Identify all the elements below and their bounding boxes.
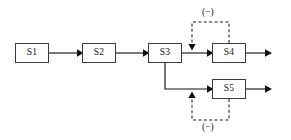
node-s2-label: S2	[94, 48, 104, 58]
connection-s1-to-s2	[49, 49, 84, 56]
connection-s2-to-s3	[116, 49, 150, 56]
node-s1[interactable]: S1	[15, 43, 49, 63]
node-s5[interactable]: S5	[212, 79, 246, 99]
feedback-sign-label-s5: (−)	[202, 123, 214, 133]
node-s1-label: S1	[27, 48, 37, 58]
node-s4[interactable]: S4	[212, 43, 246, 63]
connection-s5-output	[246, 85, 272, 92]
diagram-canvas: S1 S2 S3 S4 S5 (−) (−)	[0, 0, 291, 140]
connection-s4-output	[246, 49, 272, 56]
node-s5-label: S5	[224, 84, 234, 94]
feedback-sign-label-s4: (−)	[202, 8, 214, 18]
connection-s3-branch-to-s5	[165, 63, 214, 93]
node-s3[interactable]: S3	[148, 43, 182, 63]
node-s3-label: S3	[160, 48, 170, 58]
node-s2[interactable]: S2	[82, 43, 116, 63]
node-s4-label: S4	[224, 48, 234, 58]
connection-s3-to-s4	[182, 49, 214, 56]
diagram-vector-layer	[0, 0, 291, 140]
